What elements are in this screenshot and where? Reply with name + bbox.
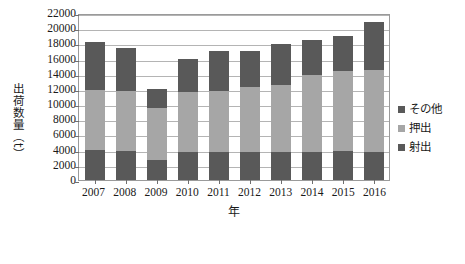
bar-segment [178, 152, 198, 180]
bar-stack [333, 15, 353, 180]
bar-segment [209, 51, 229, 91]
x-axis-tick-labels: 2007200820092010201120122013201420152016 [78, 185, 390, 201]
y-axis-tick-mark [75, 76, 79, 77]
bar-segment [364, 22, 384, 70]
bar-segment [240, 152, 260, 180]
bar-segment [147, 89, 167, 108]
bar-segment [147, 160, 167, 180]
bar-segment [302, 152, 322, 180]
shipment-volume-stacked-bar-chart: 出荷数量（t） 22000200001800016000140001200010… [0, 0, 465, 264]
bar-segment [333, 151, 353, 180]
y-axis-tick-label: 4000 [24, 145, 76, 157]
y-axis-tick-label: 20000 [24, 23, 76, 35]
x-axis-tick-label: 2007 [78, 185, 109, 201]
legend-item-label: 射出 [409, 141, 431, 153]
bar-segment [364, 152, 384, 180]
x-axis-tick-mark [126, 180, 127, 184]
x-axis-tick-label: 2015 [328, 185, 359, 201]
plot-area [78, 14, 390, 181]
y-axis-tick-label: 6000 [24, 130, 76, 142]
bar-segment [116, 48, 136, 91]
x-axis-title: 年 [78, 202, 390, 219]
x-axis-tick-label: 2009 [140, 185, 171, 201]
legend-item: 射出 [398, 139, 464, 155]
legend-item-label: その他 [409, 103, 442, 115]
x-axis-tick-label: 2011 [203, 185, 234, 201]
y-axis-tick-mark [75, 182, 79, 183]
legend-swatch-icon [398, 106, 405, 113]
legend-swatch-icon [398, 125, 405, 132]
x-axis-tick-label: 2014 [296, 185, 327, 201]
bar-segment [271, 152, 291, 180]
x-axis-tick-mark [281, 180, 282, 184]
bar-stack [85, 15, 105, 180]
y-axis-tick-mark [75, 91, 79, 92]
x-axis-tick-mark [219, 180, 220, 184]
bar-stack [147, 15, 167, 180]
y-axis-tick-label: 22000 [24, 8, 76, 20]
y-axis-tick-mark [75, 45, 79, 46]
x-axis-tick-mark [374, 180, 375, 184]
bar-segment [85, 90, 105, 150]
bar-stack [178, 15, 198, 180]
bar-segment [209, 152, 229, 180]
bar-group [79, 15, 389, 180]
y-axis-tick-label: 8000 [24, 115, 76, 127]
x-axis-tick-mark [250, 180, 251, 184]
bar-stack [271, 15, 291, 180]
bar-segment [302, 75, 322, 151]
chart-legend: その他押出射出 [398, 101, 464, 158]
x-axis-tick-mark [95, 180, 96, 184]
x-axis-tick-label: 2013 [265, 185, 296, 201]
legend-item: その他 [398, 101, 464, 117]
bar-segment [209, 91, 229, 152]
bar-segment [271, 44, 291, 85]
y-axis-tick-labels: 2200020000180001600014000120001000080006… [24, 6, 76, 196]
bar-segment [240, 87, 260, 152]
y-axis-tick-mark [75, 136, 79, 137]
bar-stack [302, 15, 322, 180]
y-axis-tick-label: 18000 [24, 39, 76, 51]
bar-segment [333, 71, 353, 151]
legend-item: 押出 [398, 120, 464, 136]
bar-stack [116, 15, 136, 180]
bar-segment [333, 36, 353, 71]
y-axis-tick-label: 14000 [24, 69, 76, 81]
x-axis-tick-mark [312, 180, 313, 184]
bar-segment [271, 85, 291, 153]
legend-item-label: 押出 [409, 122, 431, 134]
x-axis-tick-label: 2010 [172, 185, 203, 201]
bar-segment [85, 150, 105, 180]
bar-segment [178, 92, 198, 152]
x-axis-tick-mark [343, 180, 344, 184]
y-axis-tick-mark [75, 15, 79, 16]
y-axis-tick-mark [75, 152, 79, 153]
x-axis-tick-mark [188, 180, 189, 184]
y-axis-tick-mark [75, 167, 79, 168]
y-axis-tick-mark [75, 61, 79, 62]
y-axis-tick-mark [75, 121, 79, 122]
y-axis-tick-mark [75, 30, 79, 31]
bar-segment [147, 108, 167, 160]
bar-segment [302, 40, 322, 76]
bar-segment [364, 70, 384, 152]
y-axis-title: 出荷数量（t） [2, 58, 24, 184]
x-axis-tick-label: 2016 [359, 185, 390, 201]
y-axis-tick-label: 2000 [24, 160, 76, 172]
bar-segment [178, 59, 198, 93]
x-axis-tick-mark [157, 180, 158, 184]
y-axis-tick-label: 16000 [24, 54, 76, 66]
bar-segment [85, 42, 105, 91]
bar-stack [240, 15, 260, 180]
bar-stack [209, 15, 229, 180]
x-axis-tick-label: 2008 [109, 185, 140, 201]
bar-stack [364, 15, 384, 180]
bar-segment [116, 91, 136, 151]
y-axis-tick-label: 12000 [24, 84, 76, 96]
y-axis-tick-label: 0 [24, 175, 76, 187]
bar-segment [240, 51, 260, 87]
y-axis-tick-mark [75, 106, 79, 107]
legend-swatch-icon [398, 144, 405, 151]
bar-segment [116, 151, 136, 180]
y-axis-tick-label: 10000 [24, 99, 76, 111]
